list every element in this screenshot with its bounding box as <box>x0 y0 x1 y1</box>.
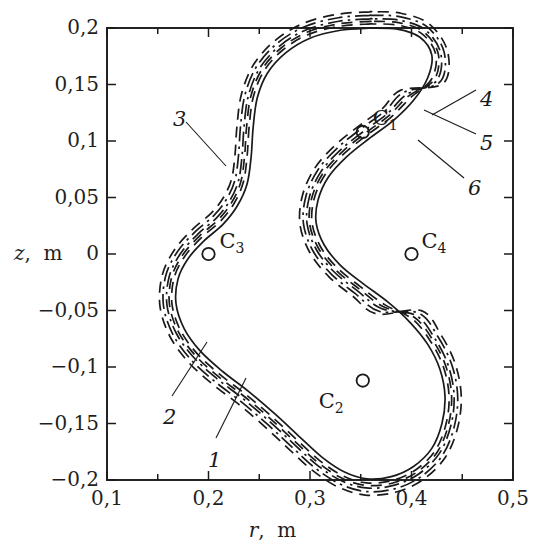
y-tick-label-5: −0,05 <box>25 298 99 322</box>
coil-marker-C4 <box>405 248 417 260</box>
y-tick-label-7: −0,15 <box>25 411 99 435</box>
curve-label-6: 6 <box>468 176 481 200</box>
x-tick-label-0: 0,1 <box>77 486 137 510</box>
contour-curves <box>159 12 461 496</box>
contour-curve-5 <box>169 21 452 486</box>
leader-line-3 <box>186 122 226 166</box>
leader-line-5 <box>424 110 476 134</box>
contour-curve-2 <box>172 24 450 483</box>
x-tick-label-2: 0,3 <box>280 486 340 510</box>
coil-label-C2: C2 <box>319 389 344 416</box>
coil-label-C3: C3 <box>220 229 245 256</box>
coil-label-C1: C1 <box>373 106 398 133</box>
leader-line-2 <box>172 342 207 396</box>
contour-curve-3 <box>159 12 461 496</box>
curve-label-3: 3 <box>173 107 186 131</box>
curve-label-5: 5 <box>480 131 493 155</box>
x-axis-title: r, m <box>0 518 545 542</box>
y-tick-label-6: −0,1 <box>25 354 99 378</box>
x-tick-label-4: 0,5 <box>483 486 543 510</box>
x-tick-label-1: 0,2 <box>179 486 239 510</box>
coil-label-C4: C4 <box>422 229 447 256</box>
leader-line-6 <box>418 140 464 178</box>
coil-marker-C3 <box>202 248 214 260</box>
y-tick-label-1: 0,15 <box>25 72 99 96</box>
label-leader-lines <box>172 90 476 438</box>
y-tick-label-2: 0,1 <box>25 128 99 152</box>
coil-marker-C2 <box>357 374 369 386</box>
y-axis-title: z, m <box>14 241 63 265</box>
curve-label-2: 2 <box>163 405 176 429</box>
contour-curve-6 <box>163 15 458 492</box>
curve-label-1: 1 <box>208 448 221 472</box>
y-tick-label-0: 0,2 <box>25 15 99 39</box>
curve-label-4: 4 <box>480 87 493 111</box>
y-tick-label-3: 0,05 <box>25 185 99 209</box>
leader-line-4 <box>432 90 476 115</box>
x-tick-label-3: 0,4 <box>382 486 442 510</box>
